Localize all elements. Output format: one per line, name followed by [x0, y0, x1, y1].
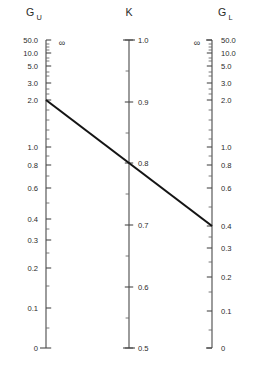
- tick-label-GU-10: 0.2: [27, 264, 38, 273]
- tick-label-GL-5: 1.0: [221, 143, 232, 152]
- axis-title-sub-GU: U: [37, 13, 42, 22]
- tick-label-GU-0: 50.0: [23, 36, 38, 45]
- axis-title-main-GL: G: [218, 6, 226, 18]
- tick-label-GL-9: 0.3: [221, 244, 232, 253]
- axis-title-K: K: [125, 6, 132, 18]
- tick-label-GL-4: 2.0: [221, 96, 232, 105]
- tick-label-GU-11: 0.1: [27, 304, 38, 313]
- tick-label-GL-11: 0.1: [221, 307, 232, 316]
- tick-label-K-4: 0.6: [138, 283, 149, 292]
- tick-label-K-5: 0.5: [138, 344, 149, 353]
- tick-label-GU-1: 10.0: [23, 49, 38, 58]
- tick-label-GU-12: 0: [34, 344, 38, 353]
- tick-label-GL-6: 0.8: [221, 161, 232, 170]
- tick-label-GL-10: 0.2: [221, 273, 232, 282]
- axis-title-main-K: K: [125, 6, 132, 18]
- nomogram-figure: 50.010.05.03.02.01.00.80.60.40.30.20.10∞…: [0, 0, 261, 369]
- tick-label-GU-4: 2.0: [27, 96, 38, 105]
- tick-label-K-2: 0.8: [138, 159, 149, 168]
- axis-title-sub-GL: L: [229, 13, 233, 22]
- tick-label-K-3: 0.7: [138, 221, 149, 230]
- tick-label-GU-5: 1.0: [27, 143, 38, 152]
- tick-label-K-1: 0.9: [138, 98, 149, 107]
- tick-label-GU-7: 0.6: [27, 184, 38, 193]
- tick-label-GU-2: 5.0: [27, 62, 38, 71]
- tick-label-GU-6: 0.8: [27, 161, 38, 170]
- tick-label-GU-9: 0.3: [27, 236, 38, 245]
- tick-label-GL-12: 0: [221, 344, 225, 353]
- tick-label-GL-7: 0.6: [221, 184, 232, 193]
- tick-label-GL-0: 50.0: [221, 36, 236, 45]
- infinity-label-GL: ∞: [194, 37, 201, 48]
- tick-label-GU-8: 0.4: [27, 215, 38, 224]
- tick-label-GL-2: 5.0: [221, 62, 232, 71]
- infinity-label-GU: ∞: [59, 37, 66, 48]
- tick-label-GU-3: 3.0: [27, 79, 38, 88]
- axis-title-main-GU: G: [26, 6, 34, 18]
- tick-label-GL-8: 0.4: [221, 222, 232, 231]
- tick-label-K-0: 1.0: [138, 36, 149, 45]
- tick-label-GL-1: 10.0: [221, 49, 236, 58]
- tick-label-GL-3: 3.0: [221, 79, 232, 88]
